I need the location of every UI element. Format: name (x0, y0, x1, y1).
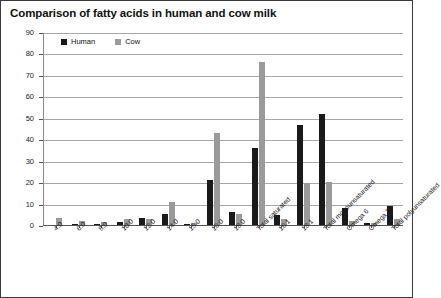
y-axis-tick-label: 80 (12, 50, 34, 57)
y-axis-tick-label: 0 (12, 222, 34, 229)
chart-title: Comparison of fatty acids in human and c… (10, 7, 276, 19)
legend-entry: Human (61, 38, 95, 46)
y-axis-tick-label: 20 (12, 179, 34, 186)
bar-group (68, 33, 91, 225)
bar-group (158, 33, 181, 225)
bar-group (113, 33, 136, 225)
bar-group (225, 33, 248, 225)
bar-group (248, 33, 271, 225)
bar-human (207, 180, 213, 225)
chart-legend: HumanCow (61, 38, 140, 46)
legend-label: Human (71, 38, 95, 46)
plot-area (43, 33, 403, 226)
bar-group (383, 33, 406, 225)
y-axis-tick-label: 50 (12, 115, 34, 122)
legend-swatch-icon (115, 39, 121, 45)
y-axis-tick-label: 40 (12, 136, 34, 143)
y-axis-tick-label: 90 (12, 29, 34, 36)
y-axis-tick-label: 10 (12, 201, 34, 208)
bar-human (297, 125, 303, 225)
bar-group (90, 33, 113, 225)
y-axis-tick-label: 70 (12, 72, 34, 79)
bar-cow (259, 62, 265, 225)
bar-group (203, 33, 226, 225)
bar-human (162, 214, 168, 225)
bar-group (45, 33, 68, 225)
bar-human (319, 114, 325, 226)
y-axis-tick-label: 30 (12, 158, 34, 165)
bar-group (270, 33, 293, 225)
bar-group (315, 33, 338, 225)
y-axis-tick-label: 60 (12, 93, 34, 100)
legend-label: Cow (125, 38, 140, 46)
bar-group (180, 33, 203, 225)
bar-cow (214, 133, 220, 225)
bar-human (252, 148, 258, 225)
x-axis-tick-labels: 4:06:08:010:012:014:015:016:018:0Total s… (43, 227, 403, 297)
bar-group (293, 33, 316, 225)
legend-swatch-icon (61, 39, 67, 45)
bar-group (135, 33, 158, 225)
legend-entry: Cow (115, 38, 140, 46)
bars-layer (45, 33, 403, 225)
